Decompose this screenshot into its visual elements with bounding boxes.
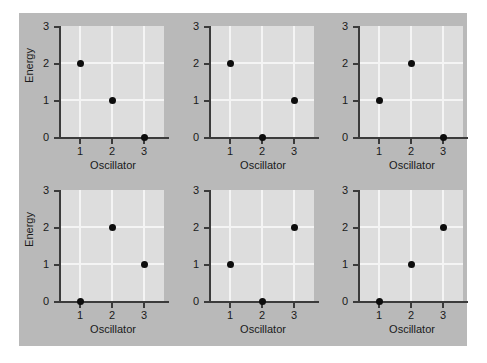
y-axis-tick-label: 2	[324, 222, 348, 233]
chart-panel: 0123123Oscillator	[318, 13, 467, 177]
y-axis-line	[209, 190, 211, 302]
x-axis-tick	[293, 303, 295, 308]
data-point	[291, 224, 298, 231]
data-point	[440, 134, 447, 141]
x-axis-tick-label: 2	[401, 146, 421, 157]
gridline-vertical	[410, 190, 412, 301]
x-axis-line	[59, 301, 169, 303]
x-axis-label: Oscillator	[53, 160, 173, 171]
y-axis-tick	[204, 190, 209, 192]
y-axis-tick-label: 2	[175, 222, 199, 233]
y-axis-tick	[353, 227, 358, 229]
y-axis-tick-label: 1	[25, 259, 49, 270]
y-axis-tick	[54, 137, 59, 139]
y-axis-line	[209, 26, 211, 138]
y-axis-line	[59, 26, 61, 138]
gridline-vertical	[410, 26, 412, 137]
plot-area	[210, 190, 314, 301]
data-point	[141, 261, 148, 268]
y-axis-line	[358, 190, 360, 302]
gridline-horizontal	[210, 62, 314, 64]
gridline-horizontal	[210, 263, 314, 265]
gridline-vertical	[261, 26, 263, 137]
y-axis-tick-label: 0	[25, 132, 49, 143]
x-axis-tick	[378, 139, 380, 144]
y-axis-tick	[204, 301, 209, 303]
gridline-vertical	[143, 190, 145, 301]
x-axis-tick-label: 3	[433, 310, 453, 321]
plot-area	[60, 26, 164, 137]
y-axis-tick	[204, 137, 209, 139]
y-axis-tick-label: 2	[324, 58, 348, 69]
y-axis-tick-label: 1	[324, 259, 348, 270]
x-axis-tick-label: 2	[252, 146, 272, 157]
y-axis-tick-label: 1	[175, 259, 199, 270]
plot-area	[210, 26, 314, 137]
y-axis-tick	[353, 26, 358, 28]
y-axis-tick	[353, 264, 358, 266]
gridline-vertical	[378, 26, 380, 137]
y-axis-line	[59, 190, 61, 302]
x-axis-tick	[293, 139, 295, 144]
x-axis-tick	[442, 303, 444, 308]
x-axis-tick-label: 2	[401, 310, 421, 321]
data-point	[109, 224, 116, 231]
y-axis-tick-label: 0	[324, 132, 348, 143]
x-axis-line	[358, 301, 468, 303]
y-axis-tick	[54, 100, 59, 102]
data-point	[259, 134, 266, 141]
data-point	[77, 298, 84, 305]
x-axis-tick-label: 1	[70, 310, 90, 321]
y-axis-tick	[54, 26, 59, 28]
y-axis-tick-label: 2	[175, 58, 199, 69]
chart-panel: 0123123OscillatorEnergy	[19, 13, 168, 177]
y-axis-tick-label: 3	[175, 185, 199, 196]
x-axis-tick	[79, 139, 81, 144]
x-axis-tick	[410, 139, 412, 144]
x-axis-label: Oscillator	[352, 324, 472, 335]
plot-area	[359, 190, 463, 301]
y-axis-tick	[54, 264, 59, 266]
data-point	[259, 298, 266, 305]
y-axis-tick	[204, 63, 209, 65]
y-axis-tick-label: 0	[175, 296, 199, 307]
gridline-vertical	[442, 190, 444, 301]
data-point	[440, 224, 447, 231]
x-axis-tick-label: 2	[102, 310, 122, 321]
gridline-vertical	[111, 190, 113, 301]
data-point	[376, 97, 383, 104]
y-axis-label: Energy	[24, 200, 35, 260]
y-axis-line	[358, 26, 360, 138]
gridline-vertical	[229, 26, 231, 137]
y-axis-label: Energy	[24, 36, 35, 96]
gridline-horizontal	[210, 226, 314, 228]
y-axis-tick	[353, 137, 358, 139]
y-axis-tick-label: 3	[25, 21, 49, 32]
x-axis-tick-label: 1	[369, 310, 389, 321]
y-axis-tick	[54, 227, 59, 229]
y-axis-tick-label: 3	[25, 185, 49, 196]
y-axis-tick	[54, 63, 59, 65]
gridline-horizontal	[359, 226, 463, 228]
data-point	[141, 134, 148, 141]
gridline-horizontal	[210, 99, 314, 101]
data-point	[77, 60, 84, 67]
y-axis-tick	[353, 63, 358, 65]
chart-panel: 0123123Oscillator	[318, 177, 467, 341]
y-axis-tick	[204, 227, 209, 229]
gridline-horizontal	[60, 263, 164, 265]
data-point	[291, 97, 298, 104]
data-point	[227, 261, 234, 268]
gridline-vertical	[229, 190, 231, 301]
gridline-vertical	[261, 190, 263, 301]
x-axis-tick-label: 3	[433, 146, 453, 157]
y-axis-tick-label: 3	[324, 185, 348, 196]
plot-area	[60, 190, 164, 301]
x-axis-tick	[111, 303, 113, 308]
data-point	[227, 60, 234, 67]
x-axis-line	[59, 137, 169, 139]
x-axis-tick-label: 1	[369, 146, 389, 157]
data-point	[376, 298, 383, 305]
y-axis-tick-label: 0	[25, 296, 49, 307]
gridline-horizontal	[359, 99, 463, 101]
